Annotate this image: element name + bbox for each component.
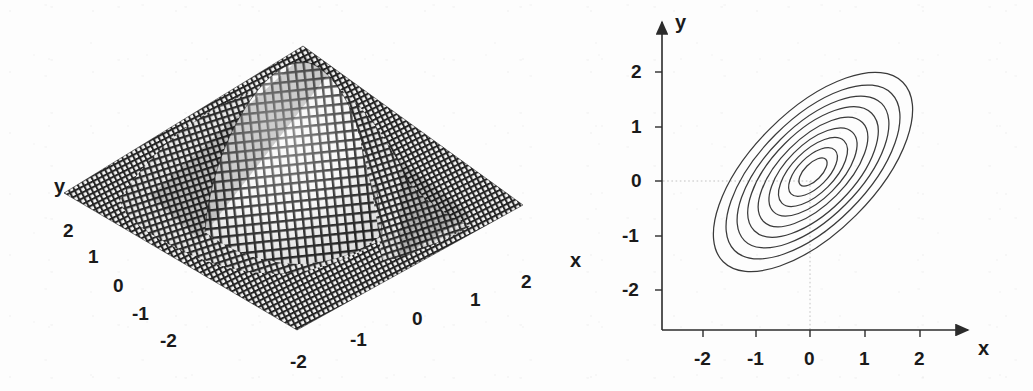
contour-y-tick-neg2: -2 — [622, 280, 639, 299]
contour-x-tick-neg2: -2 — [694, 349, 711, 368]
contour-plot-svg — [600, 0, 1033, 391]
contour-x-ticks — [703, 330, 920, 337]
contour-y-ticks — [655, 72, 662, 290]
contour-ring-2 — [697, 56, 929, 288]
surface-plot-panel: y 2 1 0 -1 -2 -2 -1 0 1 2 x — [0, 0, 600, 391]
contour-plot-panel: y 2 1 0 -1 -2 -2 -1 0 1 2 x — [600, 0, 1033, 391]
surface-y-tick-1: 1 — [88, 247, 99, 266]
surface-plot-svg — [0, 0, 600, 391]
surface-x-tick-0: 0 — [412, 309, 423, 328]
contour-axes — [662, 22, 968, 330]
surface-y-tick-neg1: -1 — [132, 304, 149, 323]
surface-x-tick-neg2: -2 — [290, 352, 307, 371]
contour-origin-guides — [663, 181, 812, 330]
surface-x-axis-label: x — [570, 250, 581, 270]
contour-ring-4 — [726, 85, 900, 259]
contour-rings — [680, 39, 946, 305]
contour-y-tick-0: 0 — [631, 171, 642, 190]
contour-x-tick-1: 1 — [859, 349, 870, 368]
contour-y-tick-2: 2 — [631, 62, 642, 81]
contour-y-tick-neg1: -1 — [622, 226, 639, 245]
contour-ring-6 — [754, 113, 871, 230]
surface-y-axis-label: y — [54, 176, 65, 196]
contour-x-axis-label: x — [978, 338, 989, 358]
surface-x-tick-2: 2 — [521, 272, 532, 291]
contour-ring-1 — [680, 39, 946, 305]
contour-ring-9 — [794, 153, 831, 190]
surface-y-tick-neg2: -2 — [160, 331, 177, 350]
contour-y-tick-1: 1 — [631, 117, 642, 136]
surface-x-tick-neg1: -1 — [350, 330, 367, 349]
surface-x-tick-1: 1 — [470, 290, 481, 309]
contour-x-tick-0: 0 — [804, 349, 815, 368]
surface-y-tick-0: 0 — [113, 276, 124, 295]
contour-x-tick-neg1: -1 — [747, 349, 764, 368]
contour-ring-8 — [780, 139, 845, 204]
surface-y-tick-2: 2 — [63, 221, 74, 240]
contour-x-tick-2: 2 — [914, 349, 925, 368]
contour-y-axis-label: y — [675, 12, 686, 32]
contour-ring-3 — [712, 71, 914, 273]
figure-bivariate-gaussian: y 2 1 0 -1 -2 -2 -1 0 1 2 x — [0, 0, 1033, 391]
